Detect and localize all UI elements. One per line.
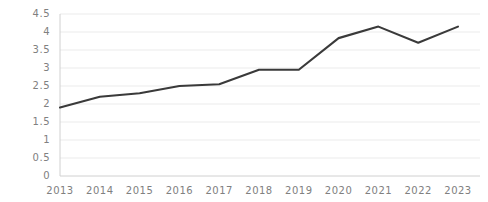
y-tick-label: 2 [0,99,50,109]
y-tick-label: 3 [0,63,50,73]
y-tick-label: 1 [0,135,50,145]
y-tick-label: 3.5 [0,45,50,55]
line-chart: 00.511.522.533.544.5 2013201420152016201… [0,0,488,202]
y-tick-label: 4.5 [0,9,50,19]
y-tick-label: 2.5 [0,81,50,91]
chart-plot-area [0,0,488,202]
y-tick-label: 0.5 [0,153,50,163]
y-tick-label: 0 [0,171,50,181]
x-tick-label: 2023 [433,186,483,196]
y-tick-label: 1.5 [0,117,50,127]
y-tick-label: 4 [0,27,50,37]
data-series-line [60,27,458,108]
